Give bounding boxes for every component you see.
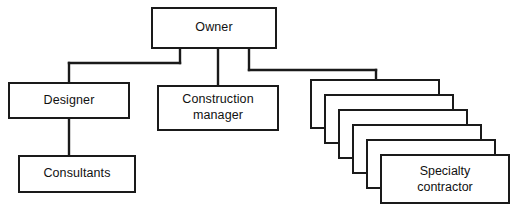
node-construction-manager-label: Construction manager: [178, 92, 257, 123]
node-consultants: Consultants: [18, 155, 136, 193]
node-construction-manager: Construction manager: [157, 85, 279, 131]
node-consultants-label: Consultants: [39, 166, 114, 182]
stack-box-specialty-contractor-front: Specialty contractor: [380, 154, 510, 204]
node-designer: Designer: [8, 82, 130, 119]
org-chart-diagram: Owner Designer Construction manager Cons…: [0, 0, 514, 208]
stack-box-specialty-contractor-label: Specialty contractor: [413, 163, 477, 196]
node-owner-label: Owner: [191, 20, 236, 36]
node-owner: Owner: [151, 7, 277, 49]
node-designer-label: Designer: [40, 93, 99, 109]
